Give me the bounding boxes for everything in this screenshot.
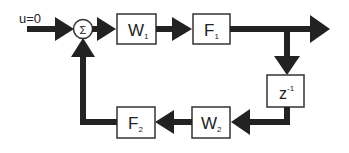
feedback-block-diagram: u=0 Σ W1 F1 z-1 bbox=[0, 0, 349, 153]
sum-node: Σ bbox=[74, 20, 93, 39]
arrow-sum-to-w1 bbox=[92, 17, 116, 41]
output-arrow bbox=[230, 15, 330, 43]
input-label: u=0 bbox=[19, 11, 41, 26]
arrow-delay-to-w2 bbox=[231, 107, 287, 135]
arrow-w2-to-f2 bbox=[155, 110, 192, 134]
arrow-w1-to-f1 bbox=[156, 17, 192, 41]
arrow-branch-to-delay bbox=[274, 29, 300, 75]
block-w2: W2 bbox=[192, 107, 230, 138]
block-delay: z-1 bbox=[267, 75, 304, 107]
feedback-arrow bbox=[71, 38, 117, 122]
block-w1: W1 bbox=[117, 14, 156, 44]
block-f1: F1 bbox=[193, 14, 230, 44]
sum-symbol: Σ bbox=[80, 24, 87, 36]
block-f2: F2 bbox=[117, 107, 155, 138]
